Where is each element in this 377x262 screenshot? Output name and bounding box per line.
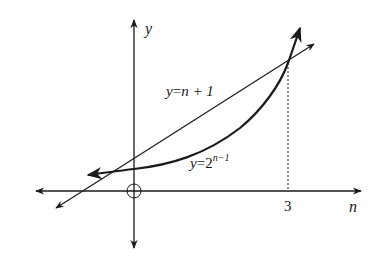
y-axis-label: y (143, 20, 153, 38)
line-y-equals-n-plus-1 (56, 44, 314, 208)
exp-equation-label: y=2n−1 (188, 152, 229, 171)
x-axis-label: n (349, 198, 357, 215)
curve-y-equals-2-pow-n-minus-1 (88, 28, 300, 175)
x-tick-3: 3 (284, 198, 292, 214)
graph: y n 3 y=n + 1 y=2n−1 (0, 0, 377, 262)
line-equation-label: y=n + 1 (164, 83, 214, 99)
